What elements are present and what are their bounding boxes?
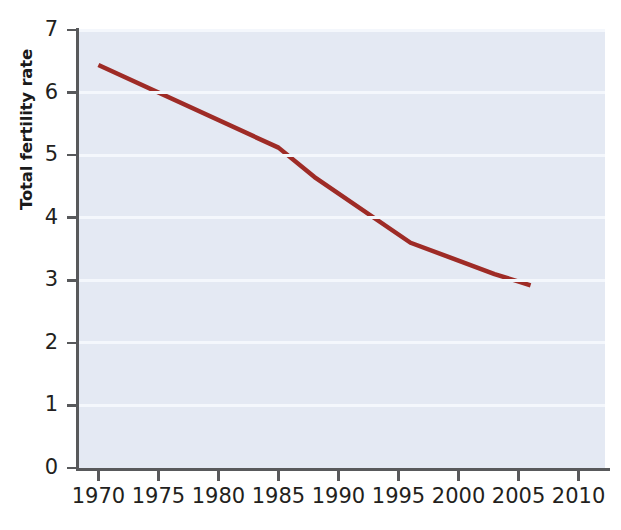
y-axis-line [76,28,79,470]
gridline [78,91,605,94]
x-tick-mark [217,470,220,481]
x-tick-label: 2010 [539,486,619,507]
gridline [78,216,605,219]
y-tick-label: 2 [18,332,58,353]
gridline [78,404,605,407]
series-line [98,65,530,285]
y-tick-label: 0 [18,457,58,478]
y-tick-mark [67,216,76,219]
gridline [78,154,605,157]
y-tick-label: 3 [18,269,58,290]
y-tick-label: 1 [18,394,58,415]
y-tick-mark [67,342,76,345]
gridline [78,341,605,344]
y-tick-label: 7 [18,19,58,40]
y-tick-mark [67,404,76,407]
y-tick-mark [67,467,76,470]
x-tick-mark [337,470,340,481]
y-tick-label: 4 [18,207,58,228]
y-tick-label: 6 [18,82,58,103]
gridline [78,279,605,282]
series-line-layer [78,30,605,468]
x-tick-mark [577,470,580,481]
y-tick-mark [67,279,76,282]
y-tick-mark [67,154,76,157]
chart-figure: Total fertility rate 01234567 1970197519… [0,0,621,530]
plot-area [78,30,605,468]
x-tick-mark [457,470,460,481]
x-tick-mark [517,470,520,481]
x-tick-mark [157,470,160,481]
y-tick-mark [67,29,76,32]
x-tick-mark [397,470,400,481]
x-tick-mark [277,470,280,481]
x-tick-mark [97,470,100,481]
y-tick-label: 5 [18,144,58,165]
gridline [78,29,605,32]
x-axis-line [76,468,610,471]
y-tick-mark [67,91,76,94]
